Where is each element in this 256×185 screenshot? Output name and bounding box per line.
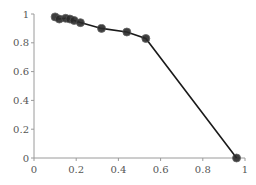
- y-tick-label: 0: [23, 153, 29, 164]
- y-tick-label: 0.2: [13, 124, 29, 135]
- y-tick-label: 1: [23, 9, 29, 20]
- data-point: [142, 34, 150, 42]
- plot-area: [51, 13, 240, 162]
- data-point: [98, 24, 106, 32]
- y-ticks: 00.20.40.60.81: [13, 9, 34, 164]
- x-tick-label: 0.4: [110, 164, 126, 175]
- x-tick-label: 0.2: [68, 164, 84, 175]
- chart: 00.20.40.60.81 00.20.40.60.81: [0, 0, 256, 185]
- y-tick-label: 0.6: [13, 66, 29, 77]
- x-ticks: 00.20.40.60.81: [31, 158, 248, 175]
- x-tick-label: 0.8: [195, 164, 211, 175]
- y-tick-label: 0.4: [13, 95, 29, 106]
- x-tick-label: 0: [31, 164, 37, 175]
- data-point: [76, 19, 84, 27]
- y-tick-label: 0.8: [13, 37, 29, 48]
- x-tick-label: 1: [242, 164, 248, 175]
- x-tick-label: 0.6: [153, 164, 169, 175]
- data-point: [233, 154, 241, 162]
- data-point: [123, 28, 131, 36]
